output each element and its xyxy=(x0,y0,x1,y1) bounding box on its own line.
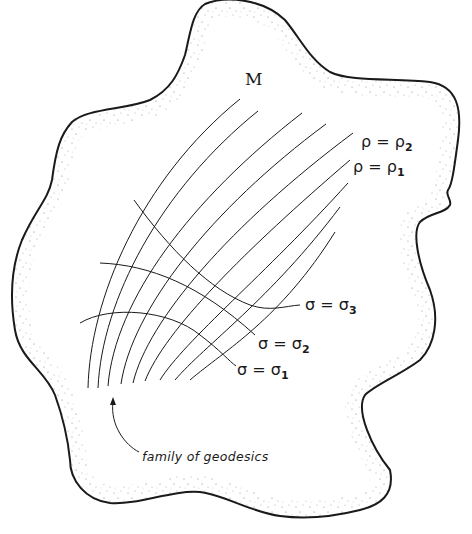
sigma-2-label: σ = σ2 xyxy=(258,336,310,355)
rho-2-label: ρ = ρ2 xyxy=(361,134,413,153)
cropped-header-remnant xyxy=(6,0,104,5)
rho-1-label: ρ = ρ1 xyxy=(353,159,405,178)
geodesic-family xyxy=(88,99,353,388)
stipple-band xyxy=(12,0,459,517)
manifold-diagram: M ρ = ρ2 ρ = ρ1 σ = σ3 σ = σ2 σ = σ1 fam… xyxy=(0,0,472,534)
geodesic-rho-1 xyxy=(145,160,350,381)
sigma-1-label: σ = σ1 xyxy=(237,362,289,381)
manifold-label: M xyxy=(245,71,262,88)
geodesics-caption: family of geodesics xyxy=(142,451,269,464)
annotation-arrow xyxy=(110,397,139,452)
sigma-3-curve xyxy=(134,200,300,308)
sigma-3-label: σ = σ3 xyxy=(305,297,357,316)
